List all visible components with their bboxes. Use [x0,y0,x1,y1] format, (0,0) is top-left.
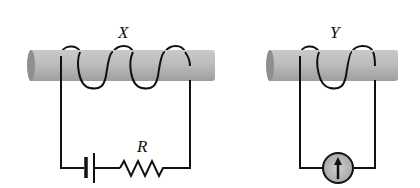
resistor-icon [120,161,167,176]
battery-icon [86,153,94,183]
circuit-diagram [0,0,420,188]
rod-y [266,46,398,100]
rod-y-body [268,50,398,81]
rod-x-end [27,50,35,81]
rod-y-end [266,50,274,81]
resistor-label: R [137,138,147,155]
galvanometer-icon [323,153,353,183]
rod-x [27,46,215,100]
rod-x-label: X [118,24,128,41]
rod-y-label: Y [330,24,339,41]
